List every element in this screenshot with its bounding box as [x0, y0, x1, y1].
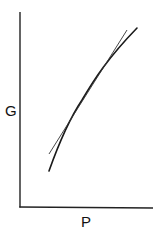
- x-axis: [19, 207, 153, 208]
- chart: [0, 0, 160, 230]
- y-axis-label: G: [5, 103, 17, 118]
- tangent-line-series: [49, 30, 127, 154]
- curve-series: [49, 28, 137, 171]
- x-axis-label: P: [81, 214, 91, 229]
